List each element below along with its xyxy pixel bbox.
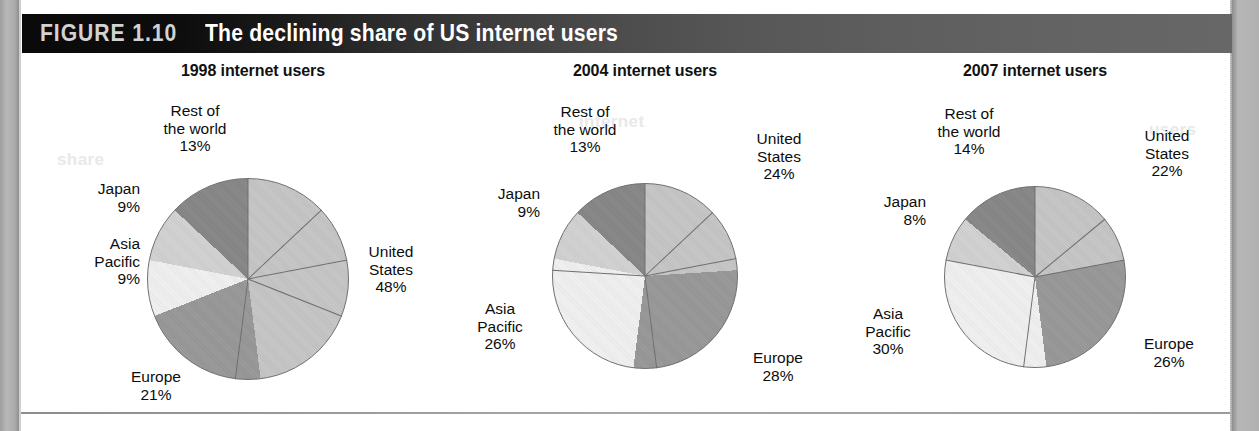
slice-divider — [1035, 219, 1106, 278]
slice-label-asia-pacific-2007: Asia Pacific 30% — [846, 305, 930, 358]
figure-bottom-rule — [21, 412, 1230, 414]
slice-divider — [552, 270, 645, 277]
pie-chart-1998 — [147, 178, 349, 380]
chart-panel-2004: 2004 internet users Rest of the world 13… — [478, 55, 812, 405]
pie-chart-2004 — [552, 183, 738, 369]
sheet-left-edge — [19, 0, 21, 431]
slice-divider — [645, 212, 713, 276]
chart-panel-2007: 2007 internet users Rest of the world 14… — [868, 55, 1202, 405]
pie-chart-2007 — [944, 186, 1126, 368]
chart-title-2007: 2007 internet users — [868, 62, 1202, 80]
chart-title-2004: 2004 internet users — [478, 62, 812, 80]
slice-label-japan-1998: Japan 9% — [70, 180, 140, 215]
slice-divider — [1035, 259, 1125, 277]
slice-divider — [645, 183, 646, 276]
slice-label-rest-of-world-2007: Rest of the world 14% — [904, 105, 1034, 158]
chart-title-1998: 1998 internet users — [86, 62, 420, 80]
slice-label-rest-of-world-1998: Rest of the world 13% — [130, 102, 260, 155]
figure-caption: The declining share of US internet users — [205, 20, 618, 47]
slice-label-asia-pacific-1998: Asia Pacific 9% — [62, 235, 140, 288]
slice-label-united-states-2004: United States 24% — [738, 130, 820, 183]
page-left-margin — [0, 0, 19, 431]
slice-label-rest-of-world-2004: Rest of the world 13% — [520, 103, 650, 156]
slice-label-europe-1998: Europe 21% — [108, 368, 204, 403]
slice-divider — [248, 209, 322, 279]
page-right-margin — [1232, 0, 1259, 431]
chart-panel-1998: 1998 internet users Rest of the world 13… — [86, 55, 420, 405]
slice-divider — [946, 259, 1036, 277]
slice-label-united-states-1998: United States 48% — [350, 243, 432, 296]
slice-divider — [248, 178, 249, 279]
slice-label-asia-pacific-2004: Asia Pacific 26% — [460, 300, 540, 353]
slice-label-japan-2004: Japan 9% — [470, 185, 540, 220]
slice-divider — [248, 279, 342, 317]
figure-title-bar: FIGURE 1.10 The declining share of US in… — [22, 14, 1232, 53]
slice-label-europe-2004: Europe 28% — [736, 349, 820, 384]
slice-divider — [645, 276, 658, 368]
slice-label-japan-2007: Japan 8% — [854, 193, 926, 228]
slice-divider — [1035, 186, 1036, 277]
slice-divider — [1023, 277, 1035, 367]
slice-label-europe-2007: Europe 26% — [1126, 335, 1212, 370]
slice-divider — [235, 279, 249, 379]
slice-label-united-states-2007: United States 22% — [1126, 127, 1208, 180]
figure-number: FIGURE 1.10 — [40, 20, 177, 47]
